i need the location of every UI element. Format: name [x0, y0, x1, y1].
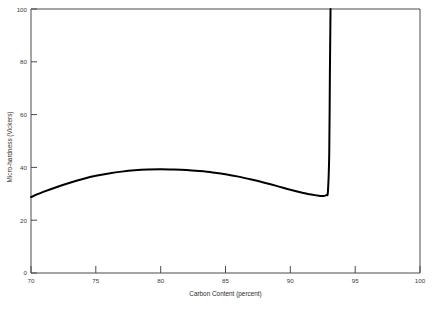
y-tick-label-0: 0 [24, 269, 28, 276]
x-tick-label-80: 80 [157, 277, 164, 284]
y-axis-title: Micro-hardness (Vickers) [6, 112, 14, 183]
x-axis-tick-labels: 70 75 80 85 90 95 100 [28, 277, 426, 284]
chart-figure: 0 20 40 60 80 100 70 75 80 85 90 95 100 [0, 0, 435, 309]
data-curve-micro-hardness [31, 9, 331, 197]
x-axis-ticks [31, 266, 420, 273]
x-tick-label-90: 90 [287, 277, 294, 284]
y-tick-label-40: 40 [20, 164, 27, 171]
x-tick-label-70: 70 [28, 277, 35, 284]
x-tick-label-95: 95 [352, 277, 359, 284]
x-tick-label-85: 85 [222, 277, 229, 284]
plot-frame [31, 9, 420, 273]
x-axis-title: Carbon Content (percent) [189, 290, 261, 298]
y-tick-label-100: 100 [17, 6, 28, 13]
x-tick-label-75: 75 [92, 277, 99, 284]
y-axis-tick-labels: 0 20 40 60 80 100 [17, 6, 28, 277]
y-tick-label-60: 60 [20, 111, 27, 118]
chart-plot-area: 0 20 40 60 80 100 70 75 80 85 90 95 100 [0, 0, 435, 309]
x-tick-label-100: 100 [415, 277, 426, 284]
y-tick-label-80: 80 [20, 58, 27, 65]
y-axis-ticks [31, 9, 37, 273]
y-tick-label-20: 20 [20, 217, 27, 224]
